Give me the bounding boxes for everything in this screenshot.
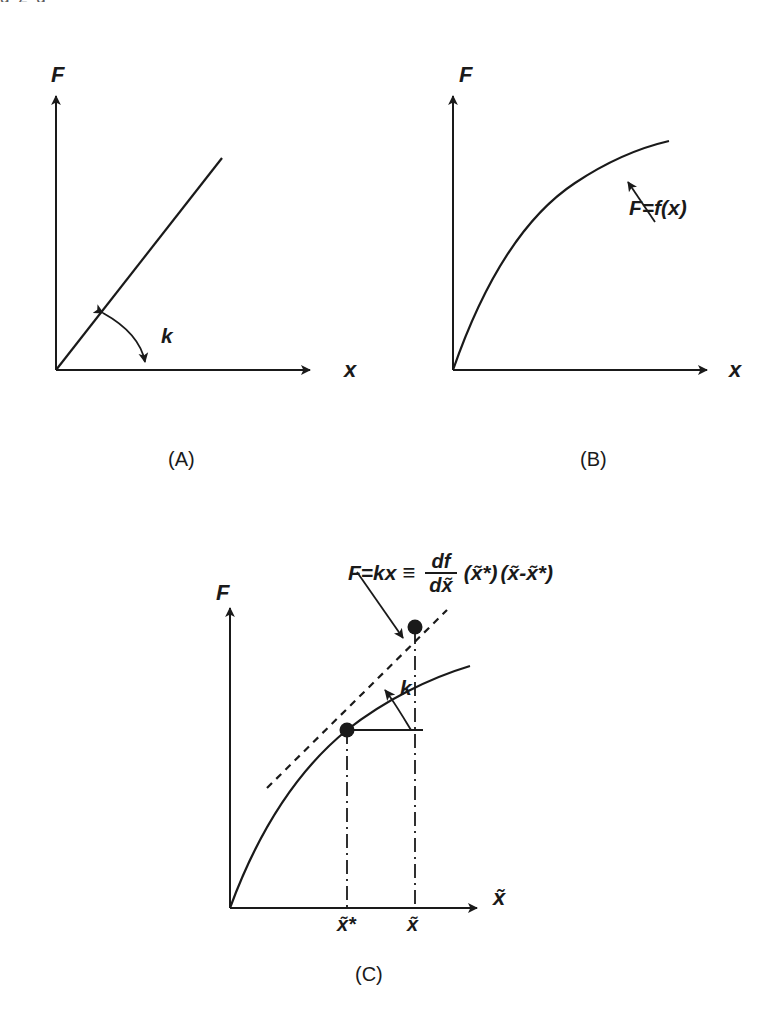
panel-c-linearized-point xyxy=(408,620,423,635)
panel-c-formula: F=kx ≡ df dx̃ (x̃*) (x̃-x̃*) xyxy=(348,551,553,595)
formula-factor-one: (x̃*) xyxy=(464,561,498,585)
formula-equivalence-sign: ≡ xyxy=(402,560,415,586)
panel-a-graphic xyxy=(30,70,360,410)
panel-c-tangent-line xyxy=(267,610,447,788)
panel-a-y-axis-label: F xyxy=(51,62,64,88)
panel-b-graphic xyxy=(415,70,745,410)
panel-b-x-axis-label: x xyxy=(729,357,741,383)
panel-a-caption: (A) xyxy=(168,448,195,471)
panel-a-x-axis-label: x xyxy=(344,357,356,383)
figure-root: g 2 g xyxy=(0,0,777,1020)
formula-derivative-denominator: dx̃ xyxy=(425,572,456,595)
panel-a-line-fkx xyxy=(56,158,222,370)
panel-c-y-axis-label: F xyxy=(216,580,229,606)
panel-c-x-axis-label-text: x̃ xyxy=(493,885,505,910)
panel-b-y-axis-label: F xyxy=(459,62,472,88)
panel-c-angle-k-label: k xyxy=(400,676,412,700)
panel-c-x-axis-label: x̃ xyxy=(493,885,505,911)
panel-a-angle-k-label: k xyxy=(161,324,173,348)
panel-c-tick-x: x̃ xyxy=(407,913,418,936)
panel-a-angle-arc xyxy=(103,313,145,362)
formula-lhs: F=kx xyxy=(348,561,396,585)
panel-c-caption: (C) xyxy=(355,963,383,986)
panel-c-tangent-point xyxy=(340,723,355,738)
panel-c-graphic xyxy=(185,560,605,940)
formula-factor-two: (x̃-x̃*) xyxy=(500,561,553,585)
panel-b-curve-fx xyxy=(453,141,669,370)
formula-derivative-numerator: df xyxy=(428,551,455,572)
panel-c-tick-xstar: x̃* xyxy=(337,913,356,936)
panel-c-curve xyxy=(230,666,470,908)
panel-b-curve-callout-label: F=f(x) xyxy=(629,196,687,220)
panel-b-caption: (B) xyxy=(580,448,607,471)
formula-derivative-fraction: df dx̃ xyxy=(425,551,456,595)
cut-caption-fragment: g 2 g xyxy=(0,0,777,2)
